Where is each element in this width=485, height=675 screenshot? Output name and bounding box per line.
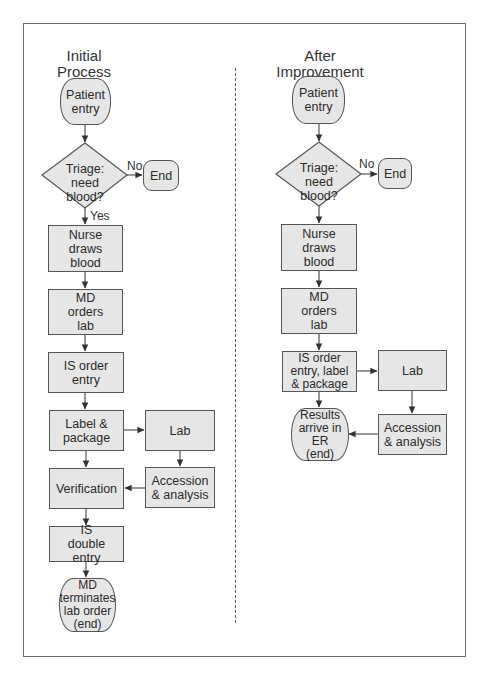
left-patient-entry: Patient entry xyxy=(60,78,111,125)
right-lab: Lab xyxy=(378,350,447,391)
left-label-package: Label & package xyxy=(49,410,124,451)
left-end: End xyxy=(143,160,179,191)
left-md-orders-lab: MD orders lab xyxy=(48,289,123,335)
right-triage-decision: Triage: need blood? xyxy=(286,161,352,203)
left-verification: Verification xyxy=(49,468,124,509)
left-md-terminates: MD terminates lab order (end) xyxy=(59,578,116,632)
left-title: Initial Process xyxy=(44,48,124,80)
left-yes-label: Yes xyxy=(90,209,110,223)
right-md-orders-lab: MD orders lab xyxy=(281,288,357,334)
left-title-line1: Initial xyxy=(44,48,124,64)
right-title-line1: After xyxy=(270,48,370,64)
left-triage-decision: Triage: need blood? xyxy=(52,162,118,204)
left-is-double-entry: IS double entry xyxy=(49,526,124,562)
left-is-order-entry: IS order entry xyxy=(48,352,124,393)
right-results-arrive: Results arrive in ER (end) xyxy=(291,408,349,461)
left-accession-analysis: Accession & analysis xyxy=(145,467,215,508)
left-lab: Lab xyxy=(145,410,215,451)
right-patient-entry: Patient entry xyxy=(292,76,345,124)
right-is-order-label-package: IS order entry, label & package xyxy=(282,351,357,392)
right-end: End xyxy=(378,158,412,189)
right-nurse-draws-blood: Nurse draws blood xyxy=(281,224,357,271)
left-no-label: No xyxy=(127,159,142,173)
right-no-label: No xyxy=(359,157,374,171)
left-nurse-draws-blood: Nurse draws blood xyxy=(48,225,123,272)
right-accession-analysis: Accession & analysis xyxy=(378,414,447,455)
